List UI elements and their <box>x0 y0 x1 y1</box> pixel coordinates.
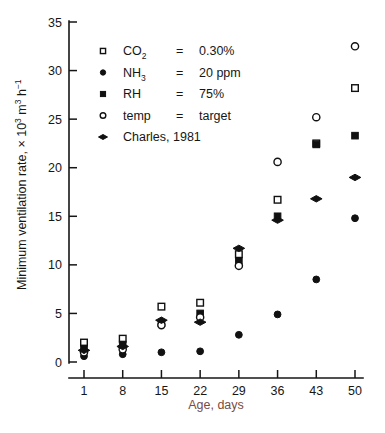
data-point-diamond <box>310 196 322 202</box>
y-tick-label: 0 <box>55 356 62 370</box>
data-point-filled-square <box>100 91 105 96</box>
y-tick-label: 15 <box>48 210 62 224</box>
legend-equals: = <box>176 87 183 101</box>
y-axis-title: Minimum ventilation rate, × 103 m3 h−1 <box>13 79 29 290</box>
legend-equals: = <box>176 66 183 80</box>
data-point-diamond <box>98 135 107 140</box>
legend-label: RH <box>123 87 141 101</box>
y-tick-label: 20 <box>48 161 62 175</box>
y-axis-tick-labels: 05101520253035 <box>48 16 62 370</box>
legend-entry: RH=75% <box>100 87 224 101</box>
chart-legend: CO2=0.30%NH3=20 ppmRH=75%temp=targetChar… <box>98 44 240 144</box>
legend-value: target <box>199 109 231 123</box>
data-point-open-circle <box>274 158 281 165</box>
data-point-filled-circle <box>274 311 281 318</box>
series-open-square <box>81 85 359 346</box>
data-point-open-square <box>100 48 105 53</box>
series-diamond <box>78 174 361 353</box>
y-tick-label: 5 <box>55 307 62 321</box>
legend-label: NH3 <box>123 66 146 83</box>
legend-entry: CO2=0.30% <box>100 44 234 61</box>
data-point-filled-circle <box>100 70 105 75</box>
chart-figure: 05101520253035 18152229364350 Minimum ve… <box>0 0 385 433</box>
series-filled-square <box>81 132 359 351</box>
legend-value: 0.30% <box>199 44 234 58</box>
x-tick-label: 8 <box>119 384 126 398</box>
x-axis-ticks <box>84 370 355 378</box>
y-tick-label: 35 <box>48 16 62 30</box>
data-point-diamond <box>272 217 284 223</box>
y-tick-label: 30 <box>48 64 62 78</box>
legend-equals: = <box>176 44 183 58</box>
data-point-open-circle <box>351 43 358 50</box>
legend-entry: NH3=20 ppm <box>100 66 240 83</box>
x-tick-label: 15 <box>154 384 168 398</box>
y-tick-label: 25 <box>48 113 62 127</box>
y-tick-label: 10 <box>48 258 62 272</box>
data-point-open-square <box>274 196 281 203</box>
data-point-diamond <box>233 245 245 251</box>
x-tick-label: 43 <box>309 384 323 398</box>
scatter-plot-svg: 05101520253035 18152229364350 Minimum ve… <box>0 0 385 433</box>
data-point-open-square <box>197 299 204 306</box>
legend-entry: Charles, 1981 <box>98 130 200 144</box>
data-point-filled-square <box>352 132 359 139</box>
data-point-filled-square <box>313 141 320 148</box>
legend-value: 75% <box>199 87 224 101</box>
data-point-open-square <box>158 303 165 310</box>
x-axis-tick-labels: 18152229364350 <box>81 384 362 398</box>
x-tick-label: 29 <box>232 384 246 398</box>
x-axis: 18152229364350 <box>69 370 363 398</box>
legend-entry: temp=target <box>100 109 231 123</box>
data-point-diamond <box>194 319 206 325</box>
data-point-filled-circle <box>313 276 320 283</box>
x-tick-label: 36 <box>271 384 285 398</box>
data-point-filled-circle <box>352 215 359 222</box>
data-point-open-circle <box>235 262 242 269</box>
x-tick-label: 50 <box>348 384 362 398</box>
data-point-diamond <box>156 317 168 323</box>
data-point-open-square <box>352 85 359 92</box>
legend-value: 20 ppm <box>199 66 241 80</box>
y-axis: 05101520253035 <box>48 16 77 370</box>
data-point-diamond <box>349 174 361 180</box>
y-axis-ticks <box>69 22 77 362</box>
legend-label: temp <box>123 109 151 123</box>
data-point-filled-circle <box>235 331 242 338</box>
x-tick-label: 22 <box>193 384 207 398</box>
data-point-filled-circle <box>197 348 204 355</box>
data-point-open-circle <box>100 113 106 119</box>
legend-label: CO2 <box>123 44 147 61</box>
legend-equals: = <box>176 109 183 123</box>
x-axis-title: Age, days <box>188 398 244 412</box>
legend-label: Charles, 1981 <box>123 130 201 144</box>
data-point-open-circle <box>313 114 320 121</box>
data-point-filled-circle <box>158 349 165 356</box>
x-tick-label: 1 <box>81 384 88 398</box>
